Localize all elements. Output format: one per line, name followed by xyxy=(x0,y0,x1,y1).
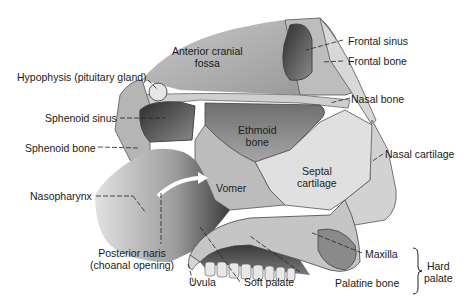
label-sphenoid-sinus: Sphenoid sinus xyxy=(45,112,117,124)
label-frontal-bone: Frontal bone xyxy=(348,55,407,67)
label-nasal-bone: Nasal bone xyxy=(351,93,404,105)
label-vomer: Vomer xyxy=(216,182,246,194)
label-maxilla: Maxilla xyxy=(365,248,398,260)
sphenoid-sinus-shape xyxy=(140,102,195,142)
label-hypophysis: Hypophysis (pituitary gland) xyxy=(17,71,147,83)
label-septal-cartilage: Septal cartilage xyxy=(297,165,337,189)
label-ethmoid-bone: Ethmoid bone xyxy=(238,124,277,148)
label-sphenoid-bone: Sphenoid bone xyxy=(25,142,96,154)
label-posterior-naris: Posterior naris (choanal opening) xyxy=(90,247,174,271)
label-uvula: Uvula xyxy=(189,276,216,288)
label-hard-palate: Hard palate xyxy=(424,260,453,284)
hypophysis-shape xyxy=(149,83,167,101)
hard-palate-brace xyxy=(413,248,422,294)
label-palatine-bone: Palatine bone xyxy=(335,277,399,289)
label-nasopharynx: Nasopharynx xyxy=(30,190,92,202)
label-soft-palate: Soft palate xyxy=(244,276,294,288)
label-nasal-cartilage: Nasal cartilage xyxy=(385,148,454,160)
label-anterior-cranial-fossa: Anterior cranial fossa xyxy=(172,45,243,69)
label-frontal-sinus: Frontal sinus xyxy=(348,35,408,47)
